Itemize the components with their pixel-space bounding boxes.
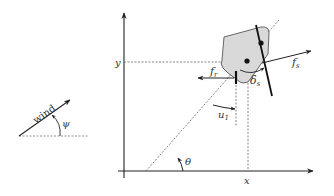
mast-dot <box>258 40 263 45</box>
rudder-force-label: fr <box>209 65 218 79</box>
wind-indicator: wind ψ <box>19 100 88 136</box>
sailboat-diagram: wind ψ y x fs fr δs u1 <box>0 0 334 196</box>
psi-label: ψ <box>62 118 70 129</box>
coordinate-axes: y x <box>114 13 313 186</box>
y-axis-label: y <box>114 57 121 68</box>
wind-label: wind <box>31 102 58 125</box>
psi-arc-icon <box>52 115 60 136</box>
x-axis-label: x <box>244 175 250 186</box>
heading-angle-label: θ <box>185 156 191 167</box>
sail-force-arrow <box>262 51 311 63</box>
center-of-mass-dot <box>244 58 249 63</box>
sail-force-label: fs <box>291 56 300 70</box>
rudder-angle-label: u1 <box>218 109 229 122</box>
heading-angle-arc-icon <box>178 158 183 171</box>
sail-angle-label: δs <box>250 74 261 88</box>
